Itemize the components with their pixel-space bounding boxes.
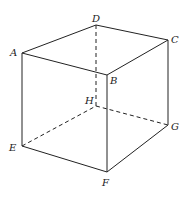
vertex-label-H: H <box>84 95 94 106</box>
vertex-label-F: F <box>101 177 110 188</box>
edge-CD <box>96 25 168 40</box>
vertex-label-E: E <box>8 142 17 153</box>
edge-DA <box>22 25 96 53</box>
cube-diagram: A D C B H G E F <box>0 0 191 200</box>
edge-AB <box>22 53 107 75</box>
hidden-edge-EH <box>22 106 96 146</box>
vertex-label-B: B <box>109 75 117 86</box>
edge-FG <box>107 125 168 172</box>
vertex-label-D: D <box>91 13 100 24</box>
vertex-label-A: A <box>9 47 17 58</box>
edge-EF <box>22 146 107 172</box>
vertex-label-G: G <box>171 121 179 132</box>
edge-BC <box>107 40 168 75</box>
vertex-label-C: C <box>171 34 179 45</box>
